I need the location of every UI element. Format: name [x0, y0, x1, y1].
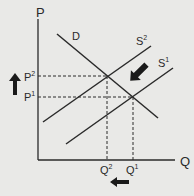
y-axis-label: P: [36, 5, 45, 20]
up-left-arrow-icon: [125, 60, 151, 86]
supply-1-curve: [66, 68, 173, 144]
supply-2-label: S2: [136, 34, 147, 47]
x-axis-label: Q: [180, 154, 190, 169]
left-arrow-icon: [110, 177, 129, 187]
supply-1-label: S1: [158, 56, 169, 69]
p2-label: P2: [24, 70, 35, 83]
up-arrow-icon: [9, 73, 21, 95]
q1-label: Q1: [126, 163, 139, 176]
demand-label: D: [72, 30, 80, 42]
q2-label: Q2: [100, 163, 113, 176]
p1-label: P1: [24, 90, 35, 103]
supply-demand-diagram: P Q D S2 S1 P2 P1 Q2 Q1: [0, 0, 194, 196]
supply-2-curve: [43, 46, 151, 122]
